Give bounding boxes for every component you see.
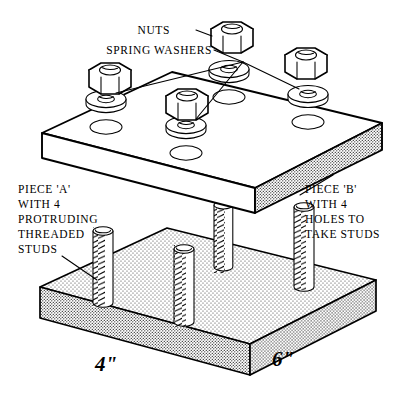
hex-nut <box>166 89 208 120</box>
label-piece-a-line3: PROTRUDING <box>18 213 98 225</box>
label-piece-a: PIECE 'A' WITH 4 PROTRUDING THREADED STU… <box>18 183 98 255</box>
threaded-stud <box>93 227 113 307</box>
hex-nut <box>89 63 131 94</box>
label-piece-b: PIECE 'B' WITH 4 HOLES TO TAKE STUDS <box>305 183 380 240</box>
label-piece-a-line4: THREADED <box>18 228 85 240</box>
bottom-plate-piece-a <box>40 228 376 375</box>
leader-nuts <box>196 30 212 36</box>
label-piece-a-line5: STUDS <box>18 243 57 255</box>
label-piece-b-line4: TAKE STUDS <box>305 228 380 240</box>
spring-washer <box>288 85 328 107</box>
label-nuts: NUTS <box>138 24 170 36</box>
assembly-diagram: NUTS SPRING WASHERS PIECE 'A' WITH 4 PRO… <box>0 0 408 393</box>
label-spring-washers: SPRING WASHERS <box>106 44 212 56</box>
label-piece-a-line2: WITH 4 <box>18 198 60 210</box>
label-piece-b-line3: HOLES TO <box>305 213 365 225</box>
stud-hole <box>90 120 122 134</box>
diagram-canvas: NUTS SPRING WASHERS PIECE 'A' WITH 4 PRO… <box>0 0 408 393</box>
dimension-6-inch: 6" <box>272 347 294 371</box>
threaded-stud <box>174 245 194 327</box>
hex-nut <box>211 22 253 53</box>
label-piece-a-line1: PIECE 'A' <box>18 183 71 195</box>
label-piece-b-line2: WITH 4 <box>305 198 347 210</box>
stud-hole <box>170 146 202 160</box>
dimension-4-inch: 4" <box>94 352 117 376</box>
stud-hole <box>292 115 324 129</box>
threaded-stud <box>214 201 233 273</box>
label-piece-b-line1: PIECE 'B' <box>305 183 357 195</box>
hex-nut <box>285 48 327 79</box>
